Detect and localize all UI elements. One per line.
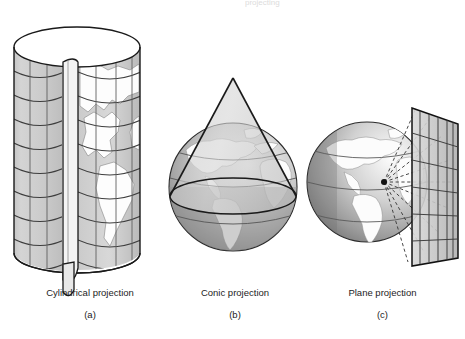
cylinder-slit [63, 59, 78, 296]
projection-plane [412, 108, 458, 266]
caption-conic: Conic projection (b) [150, 287, 320, 322]
cylinder-right-wall [74, 40, 144, 280]
cylinder-left-wall [10, 40, 70, 280]
caption-title: Cylindrical projection [46, 287, 134, 298]
caption-title: Conic projection [201, 287, 269, 298]
projection-point-marker [381, 179, 387, 185]
conic-projection-graphic [169, 78, 297, 251]
cylindrical-projection-graphic [10, 27, 144, 296]
caption-title: Plane projection [348, 287, 416, 298]
plane-projection-graphic [307, 108, 458, 266]
caption-sublabel: (c) [300, 309, 465, 322]
caption-sublabel: (b) [150, 309, 320, 322]
caption-plane: Plane projection (c) [300, 287, 465, 322]
